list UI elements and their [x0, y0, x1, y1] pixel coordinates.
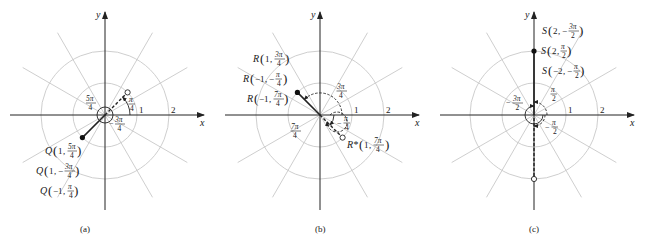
svg-text:,: , — [63, 146, 65, 156]
panel-a: x y 1 2 π 4 5π 4 − 3π 4 — [10, 9, 205, 234]
polar-coordinates-figure: x y 1 2 π 4 5π 4 − 3π 4 — [0, 0, 646, 236]
svg-text:(: ( — [548, 23, 552, 38]
svg-text:,: , — [557, 46, 559, 56]
svg-text:R: R — [246, 93, 253, 104]
svg-text:R: R — [252, 53, 259, 64]
tick-2: 2 — [386, 105, 391, 115]
svg-text:−: − — [562, 26, 567, 36]
svg-text:(: ( — [53, 143, 57, 158]
tick-2: 2 — [600, 105, 605, 115]
tick-1: 1 — [568, 105, 573, 115]
svg-text:4: 4 — [277, 79, 281, 88]
svg-text:S: S — [541, 45, 546, 56]
svg-text:R*: R* — [346, 139, 358, 150]
svg-text:1: 1 — [364, 140, 369, 150]
svg-text:−1: −1 — [53, 186, 63, 196]
svg-text:3π: 3π — [512, 94, 521, 103]
angle-label-neg-3pi-over-2: − 3π 2 — [506, 94, 523, 112]
svg-text:π: π — [68, 182, 72, 191]
svg-text:,: , — [265, 74, 267, 84]
svg-text:,: , — [270, 54, 272, 64]
svg-text:R: R — [242, 73, 249, 84]
svg-text:): ) — [567, 43, 571, 58]
svg-text:,: , — [54, 166, 56, 176]
svg-text:π: π — [561, 42, 565, 51]
svg-text:π: π — [276, 70, 280, 79]
svg-text:−1: −1 — [259, 94, 269, 104]
svg-text:,: , — [563, 66, 565, 76]
svg-text:4: 4 — [276, 99, 280, 108]
svg-text:,: , — [269, 94, 271, 104]
svg-text:−: − — [567, 66, 572, 76]
svg-text:): ) — [75, 163, 79, 178]
svg-text:(: ( — [548, 63, 552, 78]
svg-text:−1: −1 — [255, 74, 265, 84]
svg-text:1: 1 — [265, 54, 270, 64]
svg-text:4: 4 — [68, 171, 72, 180]
svg-text:S: S — [542, 25, 547, 36]
svg-text:1: 1 — [58, 146, 63, 156]
svg-text:(: ( — [44, 163, 48, 178]
svg-text:4: 4 — [130, 104, 134, 113]
svg-text:−: − — [269, 74, 274, 84]
svg-text:3π: 3π — [64, 162, 73, 171]
svg-text:S: S — [542, 65, 547, 76]
svg-text:4: 4 — [118, 124, 122, 133]
point-label-Q-1-neg-3pi-4: Q ( 1 , − 3π 4 ) — [36, 162, 79, 180]
angle-arc-neg-pi-4 — [330, 115, 334, 125]
tick-1: 1 — [139, 105, 144, 115]
svg-text:π: π — [552, 118, 556, 127]
svg-text:(: ( — [254, 91, 258, 106]
angle-label-neg-3pi-over-4: − 3π 4 — [109, 115, 125, 133]
panel-b: x y 1 2 3π 4 − π 4 7π 4 — [225, 9, 420, 234]
svg-text:): ) — [284, 91, 288, 106]
svg-text:(: ( — [359, 137, 363, 152]
svg-text:4: 4 — [376, 145, 380, 154]
svg-text:Q: Q — [45, 145, 53, 156]
svg-text:): ) — [579, 23, 583, 38]
svg-text:4: 4 — [345, 123, 349, 132]
angle-label-neg-pi-over-4: − π 4 — [337, 114, 350, 132]
x-axis-label: x — [199, 117, 205, 128]
svg-text:2: 2 — [552, 46, 557, 56]
point-label-S-2-pi-2: S ( 2 , π 2 ) — [541, 42, 571, 60]
svg-text:2: 2 — [562, 51, 566, 60]
angle-label-pi-over-4: π 4 — [129, 95, 136, 113]
y-axis-label: y — [524, 9, 530, 20]
svg-text:−: − — [337, 119, 342, 128]
point-label-R-neg1-neg-pi-4: R ( −1 , − π 4 ) — [242, 70, 287, 88]
svg-text:(: ( — [48, 183, 52, 198]
svg-text:−: − — [506, 98, 511, 107]
svg-text:3π: 3π — [336, 82, 345, 91]
svg-text:3π: 3π — [114, 115, 123, 124]
svg-text:2: 2 — [575, 71, 579, 80]
tick-1: 1 — [354, 105, 359, 115]
svg-text:,: , — [558, 26, 560, 36]
svg-text:−: − — [58, 166, 63, 176]
y-axis-label: y — [95, 9, 101, 20]
svg-text:): ) — [285, 51, 289, 66]
panel-caption-a: (a) — [80, 224, 90, 234]
svg-text:Q: Q — [36, 165, 44, 176]
x-axis-label: x — [414, 117, 420, 128]
svg-text:2: 2 — [552, 94, 556, 103]
svg-text:): ) — [580, 63, 584, 78]
svg-text:): ) — [74, 183, 78, 198]
angle-label-3pi-over-4: 3π 4 — [336, 82, 347, 100]
svg-text:5π: 5π — [86, 94, 94, 103]
svg-text:−2: −2 — [553, 66, 563, 76]
svg-text:−: − — [545, 123, 550, 132]
svg-text:(: ( — [260, 51, 264, 66]
svg-text:π: π — [551, 85, 555, 94]
angle-label-pi-over-2: π 2 — [551, 85, 558, 103]
svg-text:1: 1 — [49, 166, 54, 176]
svg-text:4: 4 — [70, 151, 74, 160]
panel-caption-c: (c) — [529, 224, 539, 234]
x-axis-label: x — [629, 117, 635, 128]
point-open — [531, 176, 536, 181]
svg-text:−: − — [109, 119, 114, 128]
svg-text:Q: Q — [40, 185, 48, 196]
svg-text:2: 2 — [553, 127, 557, 136]
angle-label-neg-pi-over-2: − π 2 — [545, 118, 558, 136]
svg-text:7π: 7π — [274, 90, 282, 99]
